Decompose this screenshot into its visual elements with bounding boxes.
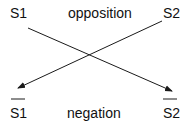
label-bottom-left: S1 xyxy=(10,105,27,121)
label-bottom-relation: negation xyxy=(67,105,121,121)
arrow-s1-to-not-s2 xyxy=(28,28,172,91)
arrow-s2-to-not-s1 xyxy=(18,21,162,88)
label-top-right: S2 xyxy=(163,5,180,21)
label-top-relation: opposition xyxy=(68,5,132,21)
semiotic-square-diagram: S1 opposition S2 S1 negation S2 xyxy=(0,0,188,128)
label-bottom-right: S2 xyxy=(163,105,180,121)
label-top-left: S1 xyxy=(10,5,27,21)
